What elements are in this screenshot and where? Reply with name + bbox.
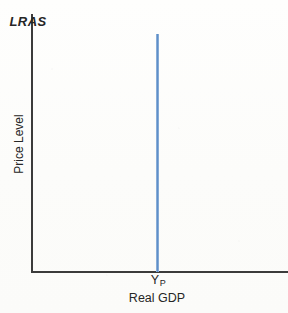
y-axis-title: Price Level <box>12 94 26 194</box>
lras-curve <box>156 34 159 272</box>
x-axis-title: Real GDP <box>97 291 217 305</box>
lras-curve-label: LRAS <box>8 14 48 29</box>
y-axis-line <box>31 14 33 273</box>
potential-output-symbol: Y <box>151 273 159 287</box>
potential-output-tick-label: YP <box>137 273 179 287</box>
potential-output-subscript: P <box>160 278 166 288</box>
lras-chart-figure: LRAS Price Level YP Real GDP <box>0 0 288 313</box>
paper-texture-overlay <box>0 0 288 313</box>
